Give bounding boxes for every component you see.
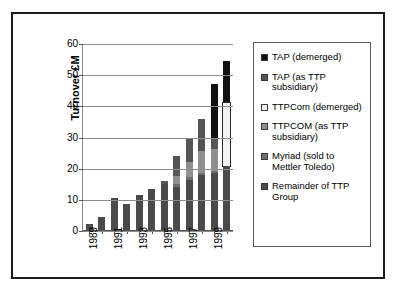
stacked-bar[interactable] xyxy=(161,181,168,230)
legend-swatch-icon xyxy=(261,153,268,160)
stacked-bar[interactable] xyxy=(186,138,193,230)
gridline xyxy=(83,138,233,139)
legend-swatch-icon xyxy=(261,104,268,111)
x-label-slot: 1995 xyxy=(157,236,170,276)
stacked-bar[interactable] xyxy=(223,61,230,230)
bar-segment[interactable] xyxy=(198,151,205,173)
bar-segment[interactable] xyxy=(198,119,205,151)
bar-segment[interactable] xyxy=(211,139,218,148)
bar-segment[interactable] xyxy=(198,175,205,230)
y-axis-tick-mark xyxy=(79,44,83,45)
stacked-bar[interactable] xyxy=(98,217,105,230)
gridline xyxy=(83,44,233,45)
x-label-slot xyxy=(120,236,133,276)
stacked-bar[interactable] xyxy=(173,156,180,230)
bar-segment[interactable] xyxy=(223,103,230,166)
y-axis-tick-label: 50 xyxy=(56,70,78,80)
x-axis-tick-labels: 198919911993199519971999 xyxy=(82,236,232,276)
legend-swatch-icon xyxy=(261,183,268,190)
x-label-slot: 1993 xyxy=(132,236,145,276)
x-label-slot xyxy=(170,236,183,276)
x-label-slot: 1989 xyxy=(82,236,95,276)
y-axis-tick-mark xyxy=(79,231,83,232)
bar-segment[interactable] xyxy=(223,166,230,230)
gridline xyxy=(83,200,233,201)
legend-swatch-icon xyxy=(261,54,268,61)
y-axis-tick-mark xyxy=(79,138,83,139)
legend-swatch-icon xyxy=(261,123,268,130)
gridline xyxy=(83,75,233,76)
y-axis-tick-label: 30 xyxy=(56,133,78,143)
legend-item[interactable]: Remainder of TTP Group xyxy=(261,181,365,202)
y-axis-tick-mark xyxy=(79,75,83,76)
bar-segment[interactable] xyxy=(123,204,130,230)
legend-item-label: TAP (as TTP subsidiary) xyxy=(272,72,365,93)
legend-item-label: TTPCom (demerged) xyxy=(272,102,362,113)
bar-segment[interactable] xyxy=(111,198,118,230)
bar-segment[interactable] xyxy=(98,217,105,230)
bar-segment[interactable] xyxy=(161,184,168,230)
stacked-bar[interactable] xyxy=(111,198,118,230)
x-label-slot xyxy=(95,236,108,276)
chart-figure: Turnover £M 0102030405060 19891991199319… xyxy=(11,12,385,279)
y-axis-tick-label: 60 xyxy=(56,39,78,49)
gridline xyxy=(83,231,233,232)
y-axis-tick-label: 40 xyxy=(56,101,78,111)
bar-segment[interactable] xyxy=(186,138,193,162)
legend-swatch-icon xyxy=(261,74,268,81)
gridline xyxy=(83,106,233,107)
legend-item[interactable]: TTPCom (demerged) xyxy=(261,102,365,113)
plot-area: Turnover £M 0102030405060 19891991199319… xyxy=(26,22,241,272)
y-axis-tick-mark xyxy=(79,200,83,201)
bar-segment[interactable] xyxy=(211,84,218,139)
legend-item[interactable]: TTPCOM (as TTP subsidiary) xyxy=(261,121,365,142)
x-label-slot: 1991 xyxy=(107,236,120,276)
y-axis-tick-label: 10 xyxy=(56,195,78,205)
legend-item[interactable]: TAP (as TTP subsidiary) xyxy=(261,72,365,93)
legend-item-label: TTPCOM (as TTP subsidiary) xyxy=(272,121,365,142)
legend-item-label: TAP (demerged) xyxy=(272,52,341,63)
x-label-slot xyxy=(145,236,158,276)
legend-item[interactable]: TAP (demerged) xyxy=(261,52,365,63)
bar-segment[interactable] xyxy=(223,61,230,103)
bar-segment[interactable] xyxy=(186,180,193,230)
y-axis-tick-mark xyxy=(79,106,83,107)
legend-item-label: Myriad (sold to Mettler Toledo) xyxy=(272,151,365,172)
bar-segment[interactable] xyxy=(173,156,180,176)
y-axis-tick-mark xyxy=(79,169,83,170)
legend-item-label: Remainder of TTP Group xyxy=(272,181,365,202)
chart-legend: TAP (demerged)TAP (as TTP subsidiary)TTP… xyxy=(253,42,371,247)
y-axis-tick-label: 20 xyxy=(56,164,78,174)
bar-segment[interactable] xyxy=(211,173,218,230)
bar-segment[interactable] xyxy=(148,189,155,230)
plot-grid xyxy=(82,44,232,231)
gridline xyxy=(83,169,233,170)
stacked-bar[interactable] xyxy=(123,204,130,230)
x-label-slot xyxy=(195,236,208,276)
x-label-slot: 1997 xyxy=(182,236,195,276)
bar-segment[interactable] xyxy=(173,187,180,230)
stacked-bar[interactable] xyxy=(148,189,155,230)
y-axis-tick-labels: 0102030405060 xyxy=(56,44,78,231)
bar-segment[interactable] xyxy=(173,176,180,184)
x-label-slot xyxy=(220,236,233,276)
legend-item[interactable]: Myriad (sold to Mettler Toledo) xyxy=(261,151,365,172)
y-axis-tick-label: 0 xyxy=(56,226,78,236)
stacked-bar[interactable] xyxy=(198,119,205,230)
x-label-slot: 1999 xyxy=(207,236,220,276)
